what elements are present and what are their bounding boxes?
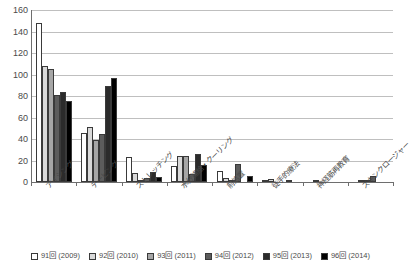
y-tick-label: 80 — [18, 92, 28, 101]
legend-swatch — [321, 253, 328, 260]
bar-group — [31, 10, 76, 182]
legend-item[interactable]: 96回 (2014) — [321, 252, 370, 260]
chart-legend: 91回 (2009)92回 (2010)93回 (2011)94回 (2012)… — [0, 248, 401, 264]
y-tick-label: 100 — [13, 70, 28, 79]
bar-group — [303, 10, 348, 182]
legend-label: 96回 (2014) — [331, 252, 370, 260]
y-tick-label: 0 — [23, 178, 28, 187]
y-tick-label: 20 — [18, 156, 28, 165]
bar-group — [348, 10, 393, 182]
legend-swatch — [89, 253, 96, 260]
bar-group — [122, 10, 167, 182]
legend-label: 95回 (2013) — [273, 252, 312, 260]
legend-item[interactable]: 94回 (2012) — [205, 252, 254, 260]
y-tick-label: 120 — [13, 49, 28, 58]
y-tick-label: 60 — [18, 113, 28, 122]
legend-label: 91回 (2009) — [41, 252, 80, 260]
legend-item[interactable]: 91回 (2009) — [31, 252, 80, 260]
y-axis-tick-labels: 020406080100120140160 — [0, 10, 28, 182]
legend-swatch — [263, 253, 270, 260]
legend-label: 92回 (2010) — [99, 252, 138, 260]
legend-item[interactable]: 95回 (2013) — [263, 252, 312, 260]
x-axis-category-labels: アイシングテーピングストレッチング水分補給・クーリング前処置徒手的療法神経筋再教… — [31, 183, 393, 241]
legend-swatch — [147, 253, 154, 260]
legend-label: 94回 (2012) — [215, 252, 254, 260]
legend-item[interactable]: 92回 (2010) — [89, 252, 138, 260]
bar-group — [257, 10, 302, 182]
bar-group — [76, 10, 121, 182]
y-tick-label: 40 — [18, 135, 28, 144]
y-tick-label: 140 — [13, 27, 28, 36]
legend-label: 93回 (2011) — [157, 252, 196, 260]
legend-swatch — [205, 253, 212, 260]
legend-swatch — [31, 253, 38, 260]
y-axis-line — [31, 10, 32, 183]
y-tick-label: 160 — [13, 6, 28, 15]
x-tick-mark — [393, 182, 394, 186]
legend-item[interactable]: 93回 (2011) — [147, 252, 196, 260]
